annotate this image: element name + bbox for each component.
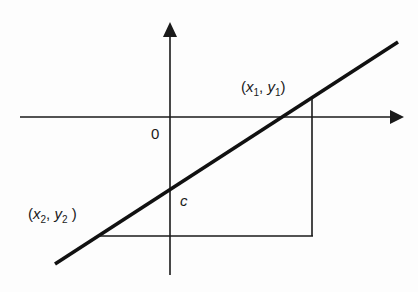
point2-label: (x2, y2 ) bbox=[28, 205, 77, 225]
origin-label: 0 bbox=[151, 125, 159, 142]
y-axis-arrow-icon bbox=[163, 22, 177, 37]
graph-line bbox=[55, 42, 398, 264]
x-axis-arrow-icon bbox=[390, 110, 404, 124]
y-axis bbox=[163, 22, 177, 275]
x-axis bbox=[20, 110, 404, 124]
point1-label: (x1, y1) bbox=[241, 78, 285, 98]
coordinate-diagram: 0 c (x1, y1) (x2, y2 ) bbox=[0, 0, 418, 292]
intercept-label: c bbox=[180, 192, 188, 209]
